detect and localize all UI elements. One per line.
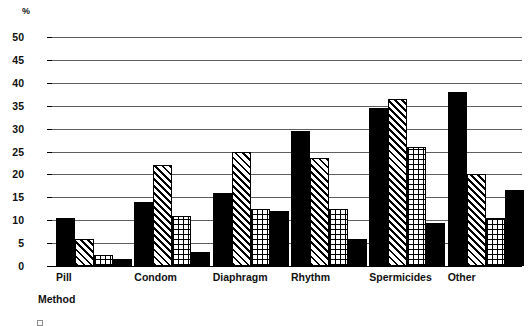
bar (172, 216, 191, 266)
y-axis-tick-mark (47, 37, 52, 38)
x-axis-category-label: Pill (56, 272, 72, 283)
y-axis-tick-label: 20 (0, 169, 24, 179)
bar (56, 218, 75, 266)
bar-group (213, 37, 289, 266)
bar (348, 239, 367, 266)
legend-swatch-icon (37, 320, 43, 326)
plot-area: 50454035302520151050 (52, 37, 522, 266)
y-axis-tick-label: 0 (0, 261, 24, 271)
y-axis-tick-label: 10 (0, 215, 24, 225)
bar (407, 147, 426, 266)
y-axis-tick-mark (47, 106, 52, 107)
bar-group (291, 37, 367, 266)
x-axis-title: Method (38, 294, 75, 305)
y-axis-tick-label: 5 (0, 238, 24, 248)
bar (153, 165, 172, 266)
bar-group (369, 37, 445, 266)
bar (191, 252, 210, 266)
y-axis-tick-mark (47, 266, 52, 267)
y-axis-tick-mark (47, 129, 52, 130)
y-axis-tick-mark (47, 220, 52, 221)
bar-group (134, 37, 210, 266)
bar (505, 190, 524, 266)
y-axis-tick-mark (47, 83, 52, 84)
y-axis-tick-label: 40 (0, 78, 24, 88)
y-axis-unit-label: % (22, 6, 30, 16)
y-axis-tick-mark (47, 243, 52, 244)
bar (251, 209, 270, 266)
legend-fragment-clipped (37, 320, 48, 326)
bar (75, 239, 94, 266)
x-axis-category-label: Diaphragm (213, 272, 268, 283)
x-axis-category-label: Other (448, 272, 476, 283)
bar (369, 108, 388, 266)
y-axis-tick-label: 50 (0, 32, 24, 42)
y-axis-tick-mark (47, 197, 52, 198)
bar (329, 209, 348, 266)
bar (134, 202, 153, 266)
x-axis-category-label: Rhythm (291, 272, 330, 283)
y-axis-tick-label: 45 (0, 55, 24, 65)
x-axis-category-label: Condom (134, 272, 177, 283)
bar (467, 174, 486, 266)
bar (448, 92, 467, 266)
bar (213, 193, 232, 266)
bar (113, 259, 132, 266)
bar (270, 211, 289, 266)
y-axis-tick-label: 25 (0, 147, 24, 157)
x-axis-category-label: Spermicides (369, 272, 431, 283)
bar (486, 218, 505, 266)
bar (232, 152, 251, 267)
bar-group (448, 37, 524, 266)
y-axis-tick-label: 15 (0, 192, 24, 202)
y-axis-tick-mark (47, 60, 52, 61)
bar (426, 223, 445, 267)
bar (94, 255, 113, 266)
y-axis-tick-label: 30 (0, 124, 24, 134)
x-axis-baseline (52, 266, 522, 267)
bar (291, 131, 310, 266)
y-axis-tick-mark (47, 174, 52, 175)
bar (388, 99, 407, 266)
bar (310, 158, 329, 266)
bar-group (56, 37, 132, 266)
y-axis-tick-mark (47, 152, 52, 153)
bar-chart: % 50454035302520151050 PillCondomDiaphra… (0, 0, 529, 326)
y-axis-tick-label: 35 (0, 101, 24, 111)
